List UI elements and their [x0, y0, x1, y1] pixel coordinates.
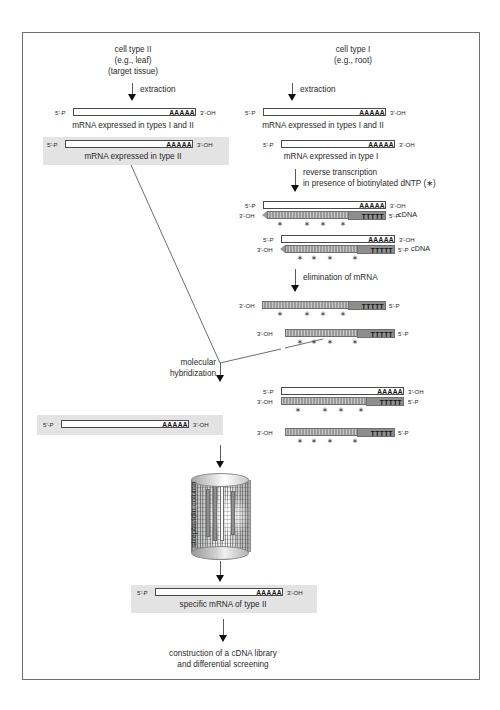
column-free-mrna	[220, 483, 224, 541]
biotin-mark: ∗	[311, 338, 317, 345]
three-prime-label: 3'-OH	[257, 330, 273, 337]
left-heading-line2: (e.g., leaf)	[115, 56, 152, 67]
left-extraction-label: extraction	[140, 85, 176, 96]
column-bottom-ellipse	[191, 546, 249, 560]
poly-t-tail: TTTTT	[357, 245, 395, 254]
three-prime-label: 3'-OH	[257, 429, 273, 436]
biotin-mark: ∗	[320, 310, 326, 317]
three-prime-label: 3'-OH	[257, 398, 273, 405]
three-prime-label: 3'-OH	[200, 109, 216, 116]
column-output-arrow	[216, 561, 225, 581]
poly-t-tail: TTTTT	[348, 211, 386, 220]
left-extraction-arrow	[128, 83, 137, 100]
left-unhybridized-mrna: 5'-P AAAAA 3'-OH	[43, 420, 218, 429]
poly-a-tail: AAAAA	[357, 140, 395, 149]
left-heading-line3: (target tissue)	[108, 67, 158, 78]
three-prime-label: 3'-OH	[287, 589, 303, 596]
column-bound-cdna	[213, 485, 217, 541]
poly-a-tail: AAAAA	[151, 420, 189, 429]
biotin-mark: ∗	[322, 406, 328, 413]
biotin-mark: ∗	[340, 310, 346, 317]
final-step-arrow	[219, 619, 228, 641]
right-strand-1: 5'-P AAAAA 3'-OH	[245, 108, 411, 117]
five-prime-label: 5'-P	[55, 109, 66, 116]
reverse-transcription-arrow	[291, 169, 300, 191]
figure-frame: cell type II (e.g., leaf) (target tissue…	[22, 32, 480, 680]
biotin-mark: ∗	[295, 406, 301, 413]
right-strand-2: 5'-P AAAAA 3'-OH	[263, 140, 423, 149]
biotin-mark: ∗	[338, 406, 344, 413]
column-bound-cdna	[231, 491, 235, 535]
hybrid-duplex-cdna: 3'-OH TTTTT 5'-P ∗ ∗ ∗ ∗	[257, 397, 447, 406]
three-prime-label: 3'-OH	[239, 302, 255, 309]
biotin-mark: ∗	[320, 220, 326, 227]
biotin-mark: ∗	[352, 437, 358, 444]
biotin-mark: ∗	[327, 254, 333, 261]
final-step-label-2: and differential screening	[177, 660, 268, 671]
five-prime-label: 5'-P	[408, 398, 419, 405]
single-cdna-2: 3'-OH TTTTT 5'-P ∗ ∗ ∗ ∗	[257, 329, 447, 338]
duplex-2-mrna: 5'-P AAAAA 3'-OH	[263, 235, 438, 244]
left-strand-1: 5'-P AAAAA 3'-OH	[55, 108, 221, 117]
three-prime-label: 3'-OH	[399, 236, 415, 243]
right-extraction-label: extraction	[300, 85, 336, 96]
three-prime-label: 3'-OH	[408, 388, 424, 395]
final-product-strand: 5'-P AAAAA 3'-OH	[137, 588, 312, 597]
poly-a-tail: AAAAA	[357, 235, 395, 244]
final-step-label-1: construction of a cDNA library	[169, 649, 277, 660]
biotin-mark: ∗	[327, 338, 333, 345]
poly-a-tail: AAAAA	[158, 108, 196, 117]
five-prime-label: 5'-P	[398, 330, 409, 337]
column-bound-cdna	[206, 489, 210, 537]
five-prime-label: 5'-P	[398, 429, 409, 436]
left-strand-2: 5'-P AAAAA 3'-OH	[47, 140, 217, 149]
poly-a-tail: AAAAA	[348, 108, 386, 117]
biotin-mark: ∗	[311, 437, 317, 444]
poly-a-tail: AAAAA	[245, 588, 283, 597]
left-strand-1-caption: mRNA expressed in types I and II	[72, 121, 194, 132]
cdna-label-1: cDNA	[398, 210, 417, 219]
three-prime-label: 3'-OH	[257, 246, 273, 253]
five-prime-label: 5'-P	[263, 141, 274, 148]
free-cdna-after-hybridization: 3'-OH TTTTT 5'-P ∗ ∗ ∗ ∗	[257, 428, 447, 437]
reverse-transcription-label-1: reverse transcription	[303, 168, 377, 179]
five-prime-label: 5'-P	[245, 202, 256, 209]
column-label: streptavidin column	[189, 482, 198, 547]
biotin-mark: ∗	[304, 310, 310, 317]
biotin-mark: ∗	[340, 220, 346, 227]
five-prime-label: 5'-P	[47, 141, 58, 148]
hybridization-label-2: hybridization	[154, 369, 216, 380]
biotin-mark: ∗	[327, 437, 333, 444]
right-strand-1-caption: mRNA expressed in types I and II	[262, 121, 384, 132]
three-prime-label: 3'-OH	[390, 109, 406, 116]
five-prime-label: 5'-P	[398, 246, 409, 253]
column-top-ellipse	[191, 473, 249, 487]
biotin-mark: ∗	[304, 220, 310, 227]
poly-t-tail: TTTTT	[366, 397, 404, 406]
three-prime-label: 3'-OH	[239, 212, 255, 219]
streptavidin-column: streptavidin column	[191, 473, 249, 559]
biotin-mark: ∗	[297, 254, 303, 261]
three-prime-label: 3'-OH	[197, 141, 213, 148]
to-column-arrow	[216, 445, 225, 467]
five-prime-label: 5'-P	[389, 302, 400, 309]
biotin-mark: ∗	[352, 338, 358, 345]
poly-t-tail: TTTTT	[357, 428, 395, 437]
hybridization-arrow	[216, 363, 225, 381]
hybridization-label-1: molecular	[154, 358, 216, 369]
left-heading-line1: cell type II	[115, 45, 152, 56]
three-prime-label: 3'-OH	[193, 421, 209, 428]
biotin-mark: ∗	[297, 338, 303, 345]
three-prime-label: 3'-OH	[399, 141, 415, 148]
reverse-transcription-label-2: in presence of biotinylated dNTP (∗)	[303, 179, 436, 190]
biotin-mark: ∗	[352, 254, 358, 261]
cdna-label-2: cDNA	[411, 244, 430, 253]
right-heading-line1: cell type I	[336, 45, 371, 56]
poly-a-tail: AAAAA	[155, 140, 193, 149]
right-strand-2-caption: mRNA expressed in type I	[284, 152, 379, 163]
five-prime-label: 5'-P	[263, 236, 274, 243]
five-prime-label: 5'-P	[43, 421, 54, 428]
right-heading-line2: (e.g., root)	[334, 56, 372, 67]
poly-t-tail: TTTTT	[348, 301, 386, 310]
biotin-mark: ∗	[311, 254, 317, 261]
